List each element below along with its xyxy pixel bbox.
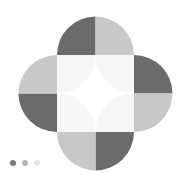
logo-canvas [0,0,189,188]
carousel-dot-2[interactable] [22,160,28,166]
carousel-dot-1[interactable] [10,160,16,166]
carousel-dot-3[interactable] [34,160,40,166]
carousel-indicator[interactable] [10,160,40,166]
